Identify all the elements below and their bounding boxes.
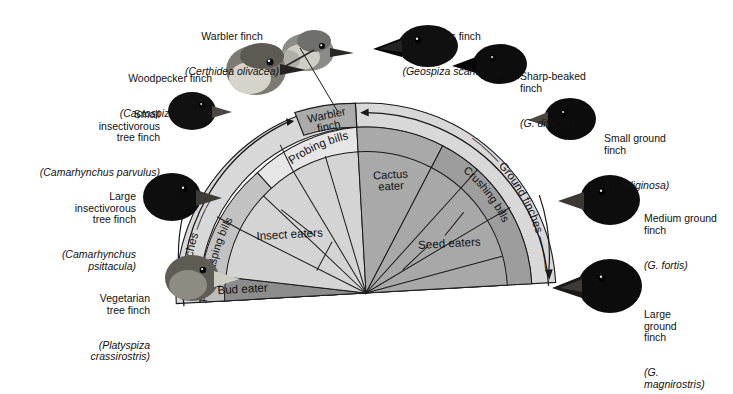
species-label-vegetarian-tree-finch: Vegetariantree finch (Platyspizacrassiro… [0, 270, 150, 386]
species-label-cactus-finch: Cactus finch (Geospiza scandens) [372, 8, 532, 101]
species-label-medium-ground-finch: Medium groundfinch (G. fortis) [644, 190, 733, 294]
bird-photo-large-ground-finch [552, 252, 648, 318]
species-label-large-ground-finch: Largegroundfinch (G.magnirostris) [644, 286, 733, 394]
bird-photo-vegetarian-tree-finch [158, 248, 240, 306]
